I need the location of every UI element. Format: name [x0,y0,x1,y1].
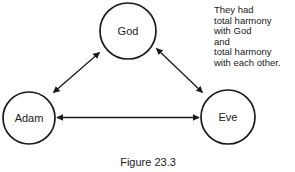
node-eve[interactable]: Eve [201,90,255,144]
figure-caption: Figure 23.3 [120,156,176,168]
node-adam[interactable]: Adam [3,92,55,144]
annotation-line: They had [214,5,295,16]
edge-adam-god [54,53,100,93]
node-god[interactable]: God [100,3,156,59]
annotation-text-block: They had total harmony with God and tota… [214,5,295,69]
node-god-label: God [118,25,139,37]
node-eve-label: Eve [219,111,238,123]
edge-god-eve [157,49,203,93]
figure-container: God Adam Eve Figure 23.3 They had total … [0,0,295,172]
node-adam-label: Adam [15,112,44,124]
annotation-line: with each other. [214,58,295,69]
